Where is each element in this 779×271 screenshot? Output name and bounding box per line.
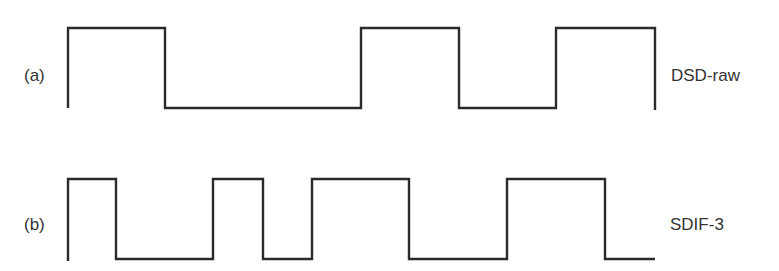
waveform-canvas: [0, 0, 779, 271]
row-a-tag: (a): [24, 67, 45, 84]
row-b-tag: (b): [24, 216, 45, 233]
dsd-raw-waveform: [68, 28, 655, 110]
row-b-name: SDIF-3: [670, 216, 724, 233]
sdif3-waveform: [68, 179, 655, 261]
row-a-name: DSD-raw: [671, 67, 740, 84]
